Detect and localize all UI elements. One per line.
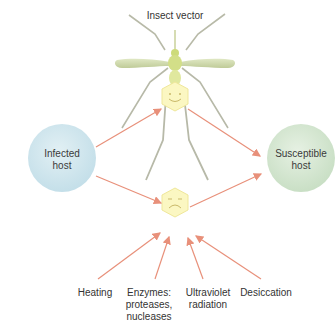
happy-virus-icon xyxy=(162,82,188,111)
arrow-environment-to-susceptible xyxy=(190,174,261,207)
arrow-heating xyxy=(98,233,160,279)
factor-ultraviolet: Ultraviolet radiation xyxy=(180,287,236,311)
factor-desiccation: Desiccation xyxy=(236,287,296,299)
arrow-desiccation xyxy=(196,236,261,279)
arrow-enzymes xyxy=(155,237,169,279)
factor-enzymes: Enzymes: proteases, nucleases xyxy=(124,287,174,323)
infected-host-label: Infected host xyxy=(28,148,96,172)
sad-virus-icon xyxy=(162,188,188,217)
insect-vector-label: Insect vector xyxy=(135,10,215,22)
arrow-ultraviolet xyxy=(188,238,203,279)
arrow-infected-to-vector xyxy=(96,109,161,147)
arrow-infected-to-environment xyxy=(96,176,161,203)
arrow-vector-to-susceptible xyxy=(188,109,260,156)
factor-heating: Heating xyxy=(70,287,120,299)
susceptible-host-label: Susceptible host xyxy=(267,148,335,172)
